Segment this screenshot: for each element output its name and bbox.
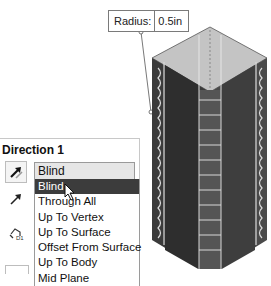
dropdown-option-offset-from-surface[interactable]: Offset From Surface <box>35 240 139 255</box>
offset-distance-icon: D1 <box>8 226 26 242</box>
svg-text:D1: D1 <box>16 235 24 241</box>
radius-dimension-callout[interactable]: Radius: 0.5in <box>108 10 189 32</box>
reverse-direction-icon <box>8 164 24 180</box>
direction-1-panel: Direction 1 D1 Blind Blind Through All U… <box>0 138 140 270</box>
reverse-direction-button[interactable] <box>5 161 27 183</box>
dropdown-option-up-to-surface[interactable]: Up To Surface <box>35 225 139 240</box>
dropdown-option-up-to-vertex[interactable]: Up To Vertex <box>35 210 139 225</box>
dropdown-option-up-to-body[interactable]: Up To Body <box>35 255 139 270</box>
dropdown-option-through-all[interactable]: Through All <box>35 194 139 209</box>
mouse-cursor-icon <box>64 183 76 201</box>
dropdown-option-blind[interactable]: Blind <box>35 179 139 194</box>
partial-button[interactable] <box>5 265 29 274</box>
dropdown-option-mid-plane[interactable]: Mid Plane <box>35 271 139 286</box>
radius-label: Radius: <box>109 11 155 31</box>
panel-title: Direction 1 <box>2 143 64 157</box>
radius-value[interactable]: 0.5in <box>155 15 188 27</box>
end-condition-dropdown-list[interactable]: Blind Through All Up To Vertex Up To Sur… <box>34 179 140 286</box>
direction-arrow-icon <box>8 191 24 207</box>
end-condition-select[interactable]: Blind <box>34 162 135 180</box>
